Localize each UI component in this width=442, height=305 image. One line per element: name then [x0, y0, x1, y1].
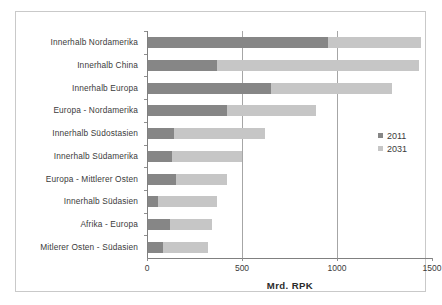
category-label: Innerhalb Nordamerika — [20, 37, 138, 47]
legend-swatch-2031 — [378, 146, 383, 151]
value-tick-label: 500 — [235, 263, 249, 273]
value-tick-label: 1000 — [328, 263, 347, 273]
category-tick — [144, 190, 147, 191]
bar-segment-2031 — [328, 37, 421, 48]
bar-row — [147, 167, 432, 190]
category-tick — [144, 76, 147, 77]
bar-segment-2031 — [158, 196, 217, 207]
value-tick-mark — [147, 258, 148, 261]
value-tick-mark — [337, 258, 338, 261]
stacked-bar — [147, 60, 419, 71]
bar-segment-2031 — [174, 128, 265, 139]
category-label: Afrika - Europa — [20, 219, 138, 229]
bar-row — [147, 31, 432, 54]
bar-segment-2011 — [147, 196, 158, 207]
legend-swatch-2011 — [378, 133, 383, 138]
bar-segment-2011 — [147, 128, 174, 139]
category-label: Europa - Nordamerika — [20, 105, 138, 115]
stacked-bar — [147, 174, 227, 185]
bar-row — [147, 54, 432, 77]
value-tick-mark — [242, 258, 243, 261]
category-tick — [144, 145, 147, 146]
bar-segment-2011 — [147, 105, 227, 116]
bar-segment-2011 — [147, 83, 271, 94]
legend-item-2031: 2031 — [378, 142, 424, 155]
category-axis-line — [147, 258, 433, 259]
legend-label-2031: 2031 — [387, 144, 407, 154]
category-tick — [144, 167, 147, 168]
category-tick — [144, 235, 147, 236]
legend-item-2011: 2011 — [378, 129, 424, 142]
value-tick-mark — [432, 258, 433, 261]
bar-segment-2011 — [147, 151, 172, 162]
stacked-bar — [147, 196, 217, 207]
bar-segment-2011 — [147, 242, 163, 253]
bar-segment-2031 — [217, 60, 418, 71]
chart-screenshot: Innerhalb NordamerikaInnerhalb ChinaInne… — [0, 0, 442, 305]
stacked-bar — [147, 83, 392, 94]
category-label: Europa - Mittlerer Osten — [20, 174, 138, 184]
stacked-bar — [147, 242, 208, 253]
bar-row — [147, 99, 432, 122]
chart-figure-frame: Innerhalb NordamerikaInnerhalb ChinaInne… — [15, 11, 426, 292]
value-tick-label: 1500 — [423, 263, 442, 273]
category-tick — [144, 54, 147, 55]
category-labels: Innerhalb NordamerikaInnerhalb ChinaInne… — [24, 31, 142, 258]
stacked-bar — [147, 105, 316, 116]
category-tick — [144, 213, 147, 214]
category-label: Innerhalb Südamerika — [20, 151, 138, 161]
stacked-bar — [147, 128, 265, 139]
stacked-bar — [147, 37, 421, 48]
category-label: Mitlerer Osten - Südasien — [20, 242, 138, 252]
category-tick — [144, 122, 147, 123]
bar-segment-2011 — [147, 174, 176, 185]
stacked-bar — [147, 151, 242, 162]
bar-row — [147, 213, 432, 236]
bar-row — [147, 190, 432, 213]
category-label: Innerhalb Europa — [20, 83, 138, 93]
category-label: Innerhalb Südasien — [20, 196, 138, 206]
bar-segment-2031 — [176, 174, 227, 185]
bar-segment-2031 — [163, 242, 208, 253]
bar-row — [147, 76, 432, 99]
stacked-bar — [147, 219, 212, 230]
value-tick-label: 0 — [145, 263, 150, 273]
category-tick — [144, 99, 147, 100]
legend-label-2011: 2011 — [387, 131, 406, 141]
bar-segment-2011 — [147, 37, 328, 48]
value-axis-line — [147, 31, 148, 259]
bar-segment-2031 — [172, 151, 242, 162]
bar-segment-2031 — [227, 105, 316, 116]
chart-legend: 2011 2031 — [378, 129, 424, 155]
category-label: Innerhalb Südostasien — [20, 128, 138, 138]
bar-row — [147, 235, 432, 258]
bar-segment-2011 — [147, 219, 170, 230]
bar-segment-2031 — [271, 83, 393, 94]
bar-segment-2011 — [147, 60, 217, 71]
category-label: Innerhalb China — [20, 60, 138, 70]
category-tick — [144, 31, 147, 32]
bar-segment-2031 — [170, 219, 212, 230]
x-axis-title: Mrd. RPK — [147, 280, 433, 291]
